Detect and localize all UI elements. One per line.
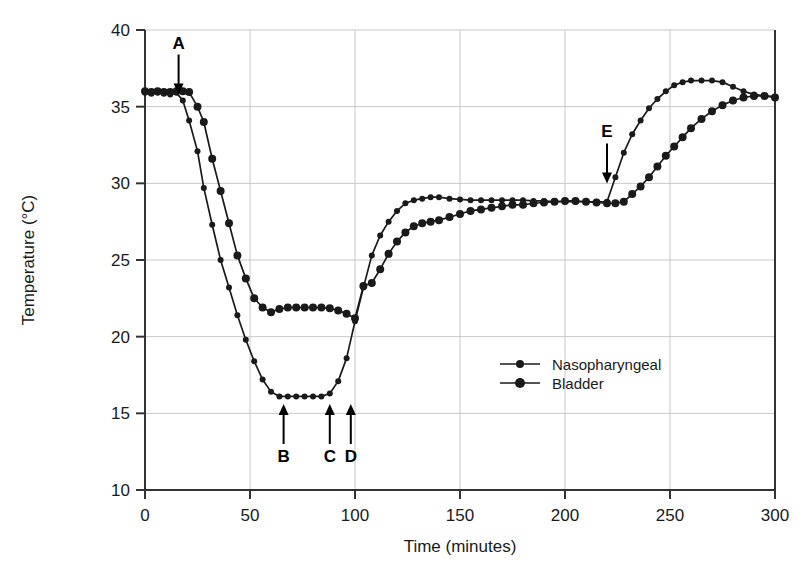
data-point-marker [200, 118, 208, 126]
data-point-marker [671, 82, 677, 88]
data-point-marker [761, 92, 769, 100]
data-point-marker [318, 393, 324, 399]
data-point-marker [186, 117, 192, 123]
data-point-marker [611, 199, 619, 207]
data-point-marker [293, 393, 299, 399]
legend-entry: Nasopharyngeal [500, 356, 661, 373]
annotation-a: A [172, 34, 184, 95]
data-point-marker [771, 93, 779, 101]
y-tick-label: 20 [111, 328, 130, 347]
data-point-marker [302, 393, 308, 399]
legend-entry: Bladder [500, 375, 604, 392]
annotation-label: E [601, 122, 612, 141]
data-point-marker [327, 390, 333, 396]
chart-annotations: ABCDE [172, 34, 612, 466]
legend-entry-label: Bladder [552, 375, 604, 392]
data-point-marker [488, 204, 496, 212]
annotation-arrow-head [325, 404, 335, 415]
data-point-marker [376, 265, 384, 273]
y-tick-label: 10 [111, 481, 130, 500]
data-point-marker [750, 92, 758, 100]
data-point-marker [310, 393, 316, 399]
data-point-marker [411, 197, 417, 203]
chart-figure: 10152025303540050100150200250300Time (mi… [0, 0, 807, 567]
data-point-marker [620, 198, 628, 206]
data-point-marker [729, 97, 737, 105]
data-point-marker [477, 205, 485, 213]
data-point-marker [457, 196, 463, 202]
data-point-marker [561, 197, 569, 205]
data-point-marker [489, 197, 495, 203]
x-tick-label: 250 [656, 506, 684, 525]
data-point-marker [530, 199, 538, 207]
data-point-marker [185, 88, 193, 96]
data-point-marker [629, 131, 635, 137]
data-point-marker [195, 148, 201, 154]
legend-marker-swatch [515, 378, 525, 388]
data-point-marker [344, 355, 350, 361]
y-axis-title: Temperature (°C) [19, 195, 38, 326]
annotation-arrow-head [602, 172, 612, 183]
data-point-marker [394, 208, 400, 214]
data-point-marker [653, 162, 661, 170]
data-point-marker [456, 210, 464, 218]
data-point-marker [343, 310, 351, 318]
data-point-marker [233, 251, 241, 259]
x-tick-label: 300 [761, 506, 789, 525]
data-point-marker [267, 308, 275, 316]
data-point-marker [662, 152, 670, 160]
data-point-marker [259, 304, 267, 312]
x-tick-label: 50 [241, 506, 260, 525]
data-point-marker [419, 196, 425, 202]
annotation-arrow-head [346, 404, 356, 415]
data-point-marker [446, 213, 454, 221]
data-point-marker [275, 305, 283, 313]
data-point-marker [386, 219, 392, 225]
x-tick-label: 150 [446, 506, 474, 525]
data-point-marker [317, 304, 325, 312]
data-point-marker [612, 174, 618, 180]
data-point-marker [208, 155, 216, 163]
x-tick-label: 200 [551, 506, 579, 525]
data-point-marker [250, 294, 258, 302]
data-point-marker [680, 79, 686, 85]
data-point-marker [699, 78, 705, 84]
data-point-marker [468, 197, 474, 203]
y-tick-label: 30 [111, 174, 130, 193]
data-point-marker [427, 218, 435, 226]
legend-entry-label: Nasopharyngeal [552, 356, 661, 373]
annotation-e: E [601, 122, 612, 183]
data-point-marker [709, 78, 715, 84]
data-point-marker [242, 274, 250, 282]
data-point-marker [572, 197, 580, 205]
chart-legend: NasopharyngealBladder [500, 356, 661, 392]
data-point-marker [467, 207, 475, 215]
data-point-marker [740, 93, 748, 101]
data-point-marker [551, 198, 559, 206]
data-point-marker [284, 304, 292, 312]
x-axis-ticks: 050100150200250300 [140, 490, 789, 525]
annotation-label: D [345, 447, 357, 466]
data-point-marker [369, 252, 375, 258]
data-point-marker [418, 219, 426, 227]
data-point-marker [260, 377, 266, 383]
data-point-marker [201, 185, 207, 191]
data-point-marker [285, 393, 291, 399]
data-point-marker [519, 201, 527, 209]
data-point-marker [218, 257, 224, 263]
data-point-marker [593, 199, 601, 207]
data-point-marker [194, 103, 202, 111]
data-point-marker [741, 88, 747, 94]
data-point-marker [180, 98, 186, 104]
data-point-marker [377, 232, 383, 238]
data-point-marker [385, 250, 393, 258]
data-point-marker [688, 78, 694, 84]
data-point-marker [393, 238, 401, 246]
y-tick-label: 40 [111, 21, 130, 40]
annotation-arrow-head [279, 404, 289, 415]
annotation-label: B [277, 447, 289, 466]
data-point-marker [435, 216, 443, 224]
data-point-marker [402, 200, 408, 206]
temperature-time-line-chart: 10152025303540050100150200250300Time (mi… [0, 0, 807, 567]
data-point-marker [301, 304, 309, 312]
